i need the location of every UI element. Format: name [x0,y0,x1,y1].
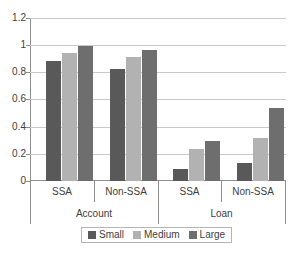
bar-group-account-ssa [46,18,95,181]
y-tick-label-0-8: 0.8 [0,67,26,77]
x-category-label-loan-nonssa: Non-SSA [221,186,285,197]
bar-loan-ssa-medium [189,149,204,181]
y-tick-label-0-6: 0.6 [0,94,26,104]
bar-group-loan-ssa [173,18,222,181]
y-tick-label-0: 0 [0,176,26,186]
legend-item-medium: Medium [133,230,180,240]
y-tick-label-1-2: 1.2 [0,13,26,23]
bar-account-nonssa-small [110,69,125,181]
x-axis-categories: SSA Non-SSA SSA Non-SSA [30,181,286,202]
plot-area [30,18,286,181]
bar-account-nonssa-medium [126,57,141,181]
x-category-label-account-nonssa: Non-SSA [94,186,158,197]
legend-label-medium: Medium [144,230,180,240]
x-axis-separator [285,181,286,202]
chart-legend: Small Medium Large [81,227,232,243]
bar-loan-nonssa-large [269,108,284,181]
legend-swatch-large-icon [189,231,197,239]
x-axis-group-separator [285,202,286,224]
x-group-label-loan: Loan [158,208,285,219]
y-tick-label-0-4: 0.4 [0,122,26,132]
x-category-label-loan-ssa: SSA [158,186,221,197]
legend-item-small: Small [88,230,124,240]
bar-group-account-nonssa [110,18,159,181]
bar-account-ssa-small [46,61,61,181]
bar-account-nonssa-large [142,50,157,181]
x-category-label-account-ssa: SSA [30,186,94,197]
bar-loan-ssa-large [205,141,220,182]
bar-loan-nonssa-small [237,163,252,181]
bar-group-loan-nonssa [237,18,286,181]
legend-item-large: Large [189,230,226,240]
bar-account-ssa-large [78,46,93,181]
bar-loan-nonssa-medium [253,138,268,181]
x-axis-groups: Account Loan [30,202,286,224]
legend-swatch-medium-icon [133,231,141,239]
x-group-label-account: Account [30,208,158,219]
legend-label-large: Large [200,230,226,240]
bar-loan-ssa-small [173,169,188,181]
bar-chart: 1.2 1 0.8 0.6 0.4 0.2 0 [0,0,298,253]
bar-account-ssa-medium [62,53,77,181]
legend-label-small: Small [99,230,124,240]
legend-swatch-small-icon [88,231,96,239]
y-tick-label-0-2: 0.2 [0,149,26,159]
y-tick-label-1: 1 [0,40,26,50]
